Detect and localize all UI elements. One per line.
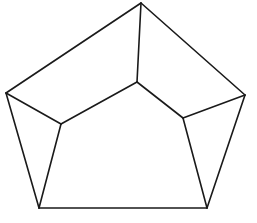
edge-outer-bottom-left-to-outer-left [6,93,39,208]
edge-outer-left-to-outer-top [6,3,141,93]
edge-inner-left-to-outer-bottom-left [39,124,61,208]
edge-outer-top-to-inner-top [137,3,141,82]
edge-inner-right-to-outer-right [183,95,245,118]
edge-outer-top-to-outer-right [141,3,245,95]
polyhedron-diagram [0,0,257,223]
edge-inner-top-to-inner-left [61,82,137,124]
edge-outer-right-to-outer-bottom-right [207,95,245,208]
edge-inner-right-to-outer-bottom-right [183,118,207,208]
edge-inner-top-to-inner-right [137,82,183,118]
